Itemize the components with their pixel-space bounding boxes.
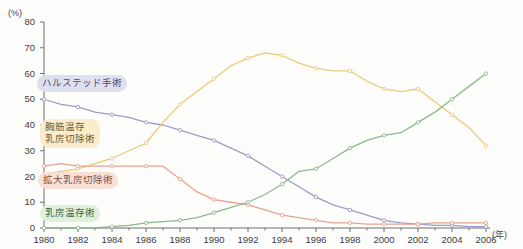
x-tick-1986: 1986 [129, 234, 163, 245]
x-tick-1998: 1998 [333, 234, 367, 245]
y-tick-10: 10 [13, 196, 35, 207]
y-tick-70: 70 [13, 42, 35, 53]
y-tick-50: 50 [13, 93, 35, 104]
x-tick-2006: 2006 [469, 234, 503, 245]
x-tick-1984: 1984 [95, 234, 129, 245]
x-tick-2004: 2004 [435, 234, 469, 245]
y-tick-0: 0 [13, 222, 35, 233]
x-tick-2000: 2000 [367, 234, 401, 245]
series-label-halsted: ハルステッド手術 [37, 75, 127, 92]
y-tick-80: 80 [13, 16, 35, 27]
series-label-breast-conserving-surgery: 乳房温存術 [40, 205, 100, 222]
y-tick-20: 20 [13, 171, 35, 182]
y-tick-40: 40 [13, 119, 35, 130]
x-tick-1996: 1996 [299, 234, 333, 245]
x-tick-2002: 2002 [401, 234, 435, 245]
series-0 [42, 98, 487, 229]
series-3 [42, 72, 487, 230]
x-tick-1990: 1990 [197, 234, 231, 245]
y-tick-30: 30 [13, 145, 35, 156]
series-label-pectoral-preserving-mastectomy: 胸筋温存 乳房切除術 [40, 119, 100, 148]
x-tick-1980: 1980 [27, 234, 61, 245]
series-label-extended-mastectomy: 拡大乳房切除術 [38, 172, 118, 189]
x-tick-1994: 1994 [265, 234, 299, 245]
x-tick-1988: 1988 [163, 234, 197, 245]
x-tick-1982: 1982 [61, 234, 95, 245]
y-tick-60: 60 [13, 68, 35, 79]
x-tick-1992: 1992 [231, 234, 265, 245]
chart-container: (%) (年) 01020304050607080 19801982198419… [0, 0, 523, 249]
